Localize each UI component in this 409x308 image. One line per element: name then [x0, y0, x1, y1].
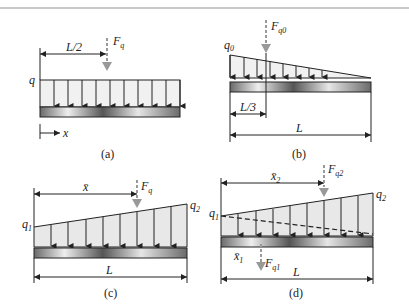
label-Fq1: Fq1: [264, 256, 280, 272]
resultant-force-arrowhead: [132, 199, 142, 208]
label-Fq: Fq: [112, 34, 124, 50]
caption-c: (c): [104, 286, 117, 300]
label-L: L: [292, 265, 300, 279]
label-L-half: L/2: [65, 40, 82, 54]
trapezoidal-load-area: [221, 193, 373, 236]
beam: [230, 82, 371, 92]
panel-d: x̄2 Fq2 Fq1 x̄1 q1 q2 L (d): [209, 162, 386, 300]
label-q2: q2: [190, 198, 200, 214]
label-q1: q1: [22, 217, 32, 233]
label-q0: q0: [224, 38, 234, 53]
panel-c: x̄ Fq q1 q2 L (c): [22, 179, 200, 300]
resultant-force-arrowhead: [102, 62, 112, 71]
label-x2bar: x̄2: [270, 169, 280, 185]
label-Fq: Fq: [140, 179, 152, 195]
caption-d: (d): [289, 286, 303, 300]
panel-a: L/2 Fq q x (a): [29, 34, 180, 161]
resultant-force-arrowhead: [261, 44, 271, 53]
label-x1bar: x̄1: [233, 249, 243, 265]
beam: [40, 107, 180, 117]
caption-a: (a): [101, 147, 114, 161]
label-Fq2: Fq2: [327, 162, 343, 178]
label-xbar: x̄: [82, 180, 89, 194]
beam: [221, 237, 373, 247]
label-q: q: [29, 73, 35, 87]
beam: [34, 248, 187, 258]
label-L-third: L/3: [239, 100, 256, 114]
triangular-load-area: [230, 55, 371, 78]
label-L: L: [295, 121, 303, 135]
panel-b: Fq0 q0 L/3 L (b): [224, 19, 371, 161]
label-L: L: [105, 263, 113, 277]
trapezoidal-load-area: [34, 204, 187, 247]
label-x: x: [62, 126, 69, 140]
resultant-force-2-arrowhead: [319, 188, 329, 197]
label-Fq0: Fq0: [270, 19, 286, 35]
label-q2: q2: [376, 187, 386, 203]
label-q1: q1: [209, 206, 219, 222]
caption-b: (b): [292, 147, 306, 161]
distributed-load-figure: L/2 Fq q x (a) Fq0 q0 L/3 L (b): [0, 0, 409, 308]
